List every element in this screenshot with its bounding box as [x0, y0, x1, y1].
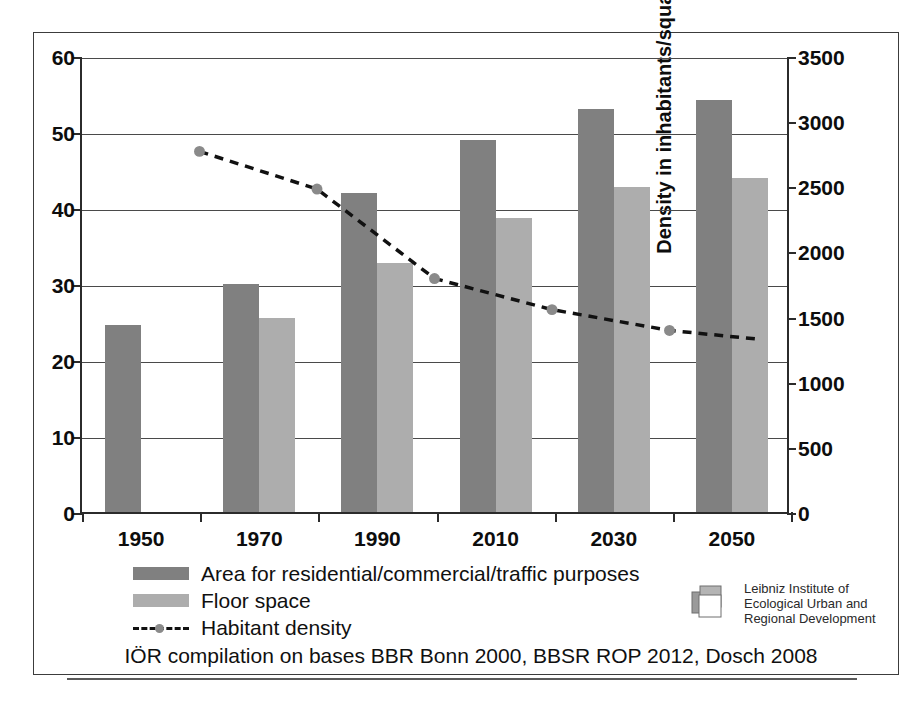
gridline	[82, 210, 787, 211]
left-tick-label: 40	[52, 198, 75, 222]
right-tick-label: 1000	[798, 372, 845, 396]
density-marker	[547, 304, 558, 315]
x-tick-label: 2010	[472, 527, 519, 551]
right-tick-mark	[787, 318, 796, 320]
legend-label-floor-space: Floor space	[201, 589, 311, 613]
caption-divider	[67, 678, 857, 680]
gridline	[82, 286, 787, 287]
right-tick-label: 0	[798, 502, 810, 526]
x-tick-mark	[791, 512, 793, 522]
legend: Area for residential/commercial/traffic …	[133, 560, 693, 641]
x-tick-mark	[437, 512, 439, 522]
bar	[341, 193, 377, 512]
bar	[223, 284, 259, 512]
right-tick-label: 3000	[798, 111, 845, 135]
left-tick-label: 20	[52, 350, 75, 374]
gridline	[82, 134, 787, 135]
density-marker	[664, 325, 675, 336]
right-tick-mark	[787, 448, 796, 450]
right-tick-label: 2000	[798, 241, 845, 265]
gridline	[82, 362, 787, 363]
legend-swatch-area	[133, 567, 189, 580]
x-tick-label: 2030	[590, 527, 637, 551]
figure-frame: Thousand square km resp.m²/Person Densit…	[33, 32, 899, 675]
legend-swatch-floor-space	[133, 594, 189, 607]
x-tick-mark	[555, 512, 557, 522]
right-tick-label: 1500	[798, 307, 845, 331]
habitant-density-line	[82, 58, 787, 512]
legend-item-floor-space[interactable]: Floor space	[133, 587, 693, 614]
x-tick-label: 1970	[236, 527, 283, 551]
legend-marker-dot-icon	[155, 624, 164, 633]
x-tick-label: 2050	[709, 527, 756, 551]
bar	[105, 325, 141, 512]
density-marker	[429, 273, 440, 284]
bar	[578, 109, 614, 512]
left-tick-label: 0	[63, 502, 75, 526]
x-tick-mark	[200, 512, 202, 522]
institute-logo-line3: Regional Development	[744, 611, 876, 626]
gridline	[82, 438, 787, 439]
x-tick-label: 1990	[354, 527, 401, 551]
right-tick-label: 2500	[798, 176, 845, 200]
x-tick-mark	[82, 512, 84, 522]
bar	[259, 318, 295, 512]
left-tick-label: 60	[52, 46, 75, 70]
bar	[460, 140, 496, 512]
right-tick-mark	[787, 252, 796, 254]
institute-logo-line2: Ecological Urban and	[744, 596, 876, 611]
right-tick-label: 3500	[798, 46, 845, 70]
right-tick-mark	[787, 187, 796, 189]
plot-area: 6050403020100 35003000250020001500100050…	[80, 58, 789, 514]
institute-logo: Leibniz Institute of Ecological Urban an…	[691, 581, 876, 626]
x-tick-mark	[318, 512, 320, 522]
density-marker	[312, 184, 323, 195]
legend-item-area[interactable]: Area for residential/commercial/traffic …	[133, 560, 693, 587]
bar	[614, 187, 650, 512]
density-marker	[194, 146, 205, 157]
layered-squares-icon	[691, 581, 735, 623]
bar	[377, 263, 413, 512]
left-tick-label: 50	[52, 122, 75, 146]
institute-logo-text: Leibniz Institute of Ecological Urban an…	[744, 581, 876, 626]
x-tick-mark	[673, 512, 675, 522]
source-caption: IÖR compilation on bases BBR Bonn 2000, …	[71, 644, 871, 668]
legend-label-area: Area for residential/commercial/traffic …	[201, 562, 639, 586]
right-tick-mark	[787, 383, 796, 385]
x-tick-label: 1950	[118, 527, 165, 551]
bar	[696, 100, 732, 512]
legend-dashed-line-icon	[133, 621, 189, 635]
left-tick-label: 30	[52, 274, 75, 298]
legend-label-habitant-density: Habitant density	[201, 616, 352, 640]
left-tick-label: 10	[52, 426, 75, 450]
gridline	[82, 58, 787, 59]
right-tick-label: 500	[798, 437, 833, 461]
right-tick-mark	[787, 122, 796, 124]
bar	[496, 218, 532, 512]
right-tick-mark	[787, 57, 796, 59]
legend-item-habitant-density[interactable]: Habitant density	[133, 614, 693, 641]
institute-logo-line1: Leibniz Institute of	[744, 581, 876, 596]
bar	[732, 178, 768, 512]
